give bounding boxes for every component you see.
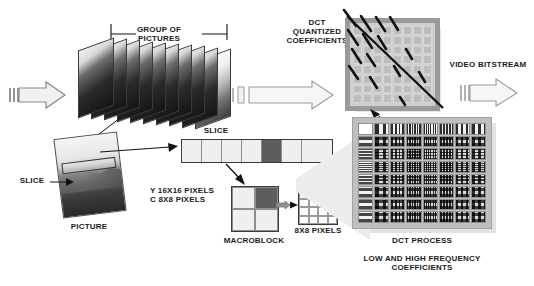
- dct-basis-cell: [406, 186, 421, 198]
- dct-basis-cell: [358, 123, 373, 135]
- dct-basis-cell: [358, 174, 373, 186]
- dct-basis-cell: [439, 186, 454, 198]
- dct-basis-function-grid: [358, 123, 486, 223]
- dct-basis-cell: [471, 211, 486, 223]
- input-arrow: [8, 80, 68, 110]
- diagram-canvas: GROUP OF PICTURES PICTURE SLICE: [0, 0, 534, 286]
- gop-to-dct-arrow: [226, 78, 336, 110]
- block-cell: [309, 216, 319, 225]
- dct-basis-cell: [471, 161, 486, 173]
- macroblock-cell: [255, 209, 278, 231]
- dct-basis-cell: [358, 148, 373, 160]
- dct-basis-cell: [406, 211, 421, 223]
- dct-basis-cell: [423, 186, 438, 198]
- dct-basis-cell: [374, 174, 389, 186]
- dct-basis-cell: [390, 174, 405, 186]
- dct-basis-cell: [439, 211, 454, 223]
- dct-basis-cell: [374, 199, 389, 211]
- dct-basis-cell: [374, 161, 389, 173]
- dct-basis-cell: [439, 123, 454, 135]
- dct-basis-cell: [455, 148, 470, 160]
- macroblock-to-block-arrow: [276, 198, 300, 212]
- macroblock-cell-selected: [255, 187, 278, 209]
- slice-cell: [202, 140, 222, 162]
- dct-basis-cell: [439, 199, 454, 211]
- dct-basis-cell: [390, 123, 405, 135]
- block-cell: [299, 216, 309, 225]
- dct-basis-cell: [374, 148, 389, 160]
- dct-basis-cell: [423, 174, 438, 186]
- block-cell: [309, 207, 319, 216]
- dct-basis-cell: [406, 148, 421, 160]
- dct-basis-cell: [439, 136, 454, 148]
- dct-basis-cell: [390, 199, 405, 211]
- dct-basis-cell: [423, 161, 438, 173]
- dct-basis-cell: [455, 199, 470, 211]
- dct-basis-cell: [374, 136, 389, 148]
- dct-basis-cell: [358, 211, 373, 223]
- dct-basis-cell: [390, 186, 405, 198]
- quant-coefficient-marks: [330, 4, 455, 116]
- dct-basis-cell: [471, 199, 486, 211]
- dct-basis-cell: [471, 148, 486, 160]
- macroblock-cell: [232, 209, 255, 231]
- block-cell: [299, 207, 309, 216]
- dct-basis-cell: [455, 186, 470, 198]
- label-macroblock: MACROBLOCK: [214, 236, 294, 245]
- dct-basis-cell: [423, 148, 438, 160]
- dct-process-panel: [352, 117, 492, 229]
- label-picture: PICTURE: [58, 222, 120, 231]
- dct-basis-cell: [455, 211, 470, 223]
- slice-cell-selected: [262, 140, 282, 162]
- label-pixels-note: Y 16X16 PIXELS C 8X8 PIXELS: [150, 186, 232, 204]
- dct-basis-cell: [358, 136, 373, 148]
- dct-basis-cell: [455, 136, 470, 148]
- dct-basis-cell: [406, 199, 421, 211]
- dct-basis-cell: [358, 161, 373, 173]
- macroblock-cell: [232, 187, 255, 209]
- dct-basis-cell: [471, 123, 486, 135]
- dct-basis-cell: [471, 186, 486, 198]
- dct-basis-cell: [390, 211, 405, 223]
- dct-basis-cell: [423, 199, 438, 211]
- label-slice-top: SLICE: [196, 126, 236, 135]
- dct-basis-cell: [439, 148, 454, 160]
- dct-basis-cell: [390, 148, 405, 160]
- dct-basis-cell: [423, 123, 438, 135]
- dct-basis-cell: [374, 211, 389, 223]
- dct-basis-cell: [390, 161, 405, 173]
- label-video-bitstream: VIDEO BITSTREAM: [443, 60, 533, 69]
- video-bitstream-arrow: [458, 76, 520, 108]
- dct-basis-cell: [406, 123, 421, 135]
- dct-basis-cell: [439, 161, 454, 173]
- dct-basis-cell: [471, 174, 486, 186]
- slice-strip: [181, 139, 333, 163]
- dct-basis-cell: [406, 136, 421, 148]
- dct-basis-cell: [374, 123, 389, 135]
- slice-left-pointer: [50, 176, 76, 188]
- slice-cell: [242, 140, 262, 162]
- block-cell: [299, 199, 309, 208]
- dct-basis-cell: [406, 174, 421, 186]
- dct-basis-cell: [358, 186, 373, 198]
- slice-cell: [222, 140, 242, 162]
- dct-basis-cell: [423, 211, 438, 223]
- slice-cell: [182, 140, 202, 162]
- dct-basis-cell: [358, 199, 373, 211]
- dct-basis-cell: [374, 186, 389, 198]
- slice-cell: [282, 140, 302, 162]
- label-frequency-caption: LOW AND HIGH FREQUENCY COEFFICIENTS: [352, 254, 492, 272]
- group-of-pictures-stack: [78, 44, 238, 122]
- label-slice-left: SLICE: [14, 176, 50, 185]
- dct-basis-cell: [455, 123, 470, 135]
- label-block-pixels: 8X8 PIXELS: [290, 226, 346, 235]
- picture-frame-in-gop: [78, 37, 114, 118]
- dct-basis-cell: [471, 136, 486, 148]
- dct-basis-cell: [406, 161, 421, 173]
- picture-to-slice-arrow: [100, 140, 180, 158]
- dct-basis-cell: [439, 174, 454, 186]
- label-dct-process: DCT PROCESS: [372, 236, 472, 245]
- block-cell: [318, 216, 328, 225]
- dct-basis-cell: [455, 161, 470, 173]
- macroblock-grid: [231, 186, 279, 232]
